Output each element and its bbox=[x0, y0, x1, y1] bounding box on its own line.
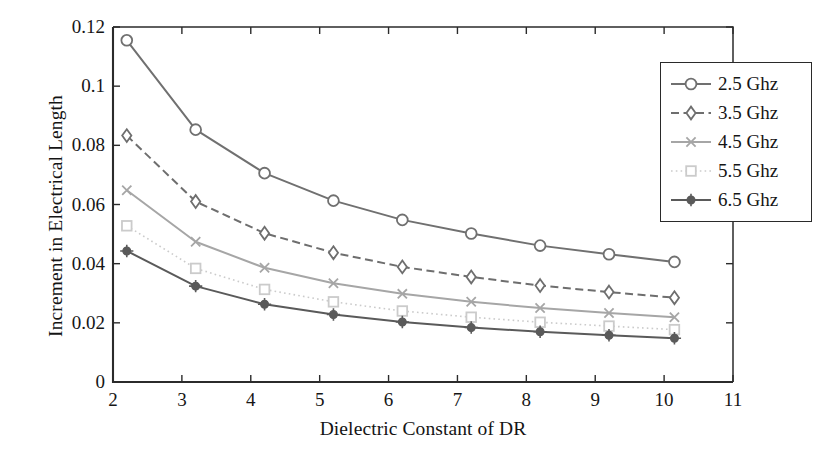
series-layer bbox=[120, 35, 681, 345]
legend-label: 2.5 Ghz bbox=[718, 73, 778, 95]
chart-series bbox=[122, 221, 679, 334]
x-tick-label: 4 bbox=[246, 389, 256, 411]
x-tick-label: 3 bbox=[177, 389, 187, 411]
legend-item: 6.5 Ghz bbox=[661, 185, 811, 214]
legend-item: 4.5 Ghz bbox=[661, 127, 811, 156]
legend-label: 5.5 Ghz bbox=[718, 160, 778, 182]
legend-label: 3.5 Ghz bbox=[718, 102, 778, 124]
y-axis-title: Increment in Electrical Length bbox=[45, 56, 67, 376]
x-tick-label: 5 bbox=[315, 389, 325, 411]
y-tick-label: 0.12 bbox=[19, 16, 105, 38]
legend-marker-circle-icon bbox=[668, 74, 714, 94]
x-tick-label: 10 bbox=[655, 389, 674, 411]
legend-marker-star-filled-icon bbox=[668, 190, 714, 210]
chart-series bbox=[121, 35, 679, 267]
x-tick-label: 7 bbox=[453, 389, 463, 411]
chart-legend: 2.5 Ghz3.5 Ghz4.5 Ghz5.5 Ghz6.5 Ghz bbox=[660, 62, 812, 222]
legend-label: 4.5 Ghz bbox=[718, 131, 778, 153]
tick-marks bbox=[113, 27, 733, 382]
legend-marker-square-icon bbox=[668, 161, 714, 181]
x-tick-label: 2 bbox=[108, 389, 118, 411]
legend-marker-diamond-icon bbox=[668, 103, 714, 123]
legend-item: 2.5 Ghz bbox=[661, 69, 811, 98]
legend-item: 5.5 Ghz bbox=[661, 156, 811, 185]
x-tick-label: 8 bbox=[522, 389, 532, 411]
x-tick-label: 9 bbox=[590, 389, 600, 411]
legend-marker-x-icon bbox=[668, 132, 714, 152]
legend-label: 6.5 Ghz bbox=[718, 189, 778, 211]
x-axis-title: Dielectric Constant of DR bbox=[113, 418, 733, 440]
x-tick-label: 6 bbox=[384, 389, 394, 411]
legend-item: 3.5 Ghz bbox=[661, 98, 811, 127]
figure-container: 23456789101100.020.040.060.080.10.12 Inc… bbox=[0, 0, 835, 452]
axes-frame bbox=[113, 27, 733, 382]
x-tick-label: 11 bbox=[724, 389, 742, 411]
